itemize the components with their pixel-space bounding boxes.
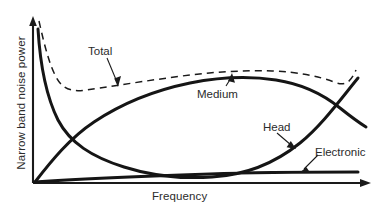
chart-plot-area	[0, 0, 381, 212]
y-axis-arrowhead	[29, 16, 37, 26]
x-axis-arrowhead	[360, 179, 371, 187]
leader-head	[277, 133, 291, 145]
curve-label-electronic: Electronic	[315, 146, 366, 158]
curve-head	[38, 29, 358, 178]
curve-label-head: Head	[263, 121, 291, 133]
x-axis-title: Frequency	[152, 190, 207, 202]
y-axis-title: Narrow band noise power	[15, 28, 27, 178]
noise-power-chart: Narrow band noise power Frequency Total …	[0, 0, 381, 212]
curve-label-medium: Medium	[197, 88, 238, 100]
curve-label-total: Total	[88, 45, 112, 57]
